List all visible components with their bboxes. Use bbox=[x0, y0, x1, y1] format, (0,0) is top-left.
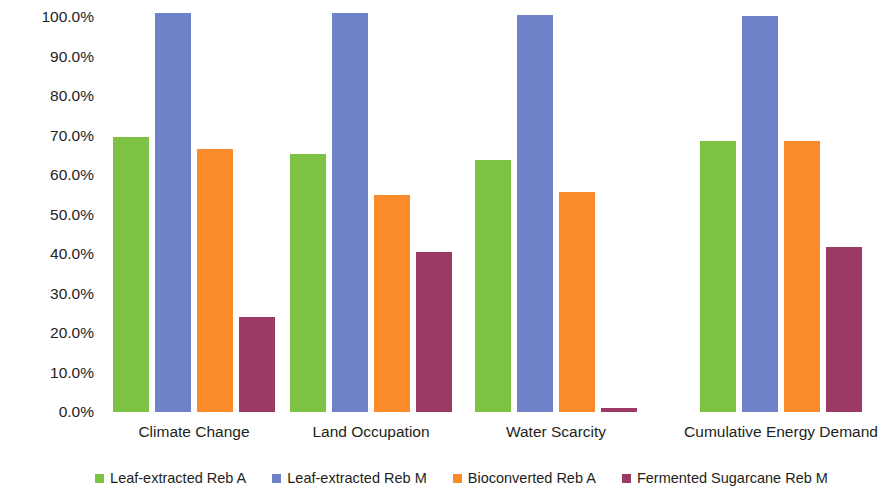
x-axis-category-label: Climate Change bbox=[138, 423, 249, 441]
bar[interactable] bbox=[700, 141, 736, 412]
y-axis-tick: 0.0% bbox=[20, 403, 94, 421]
bar[interactable] bbox=[416, 252, 452, 412]
bar[interactable] bbox=[290, 154, 326, 412]
y-axis-tick-labels: 100.0%90.0%80.0%70.0%60.0%50.0%40.0%30.0… bbox=[20, 0, 94, 420]
legend-item[interactable]: Leaf-extracted Reb M bbox=[272, 470, 426, 486]
bar[interactable] bbox=[155, 13, 191, 412]
legend-label: Leaf-extracted Reb M bbox=[287, 470, 426, 486]
y-axis-tick: 90.0% bbox=[20, 48, 94, 66]
chart-legend: Leaf-extracted Reb ALeaf-extracted Reb M… bbox=[0, 466, 895, 490]
bar[interactable] bbox=[517, 15, 553, 412]
bar[interactable] bbox=[784, 141, 820, 412]
legend-swatch-icon bbox=[453, 474, 462, 483]
bar[interactable] bbox=[239, 317, 275, 412]
y-axis-tick: 100.0% bbox=[20, 8, 94, 26]
bar[interactable] bbox=[742, 16, 778, 412]
y-axis-tick: 10.0% bbox=[20, 364, 94, 382]
bar[interactable] bbox=[113, 137, 149, 412]
bar[interactable] bbox=[601, 408, 637, 412]
y-axis-tick: 40.0% bbox=[20, 245, 94, 263]
bar[interactable] bbox=[559, 192, 595, 412]
legend-label: Leaf-extracted Reb A bbox=[110, 470, 246, 486]
x-axis-category-label: Cumulative Energy Demand bbox=[684, 423, 878, 441]
x-axis-category-label: Water Scarcity bbox=[506, 423, 606, 441]
legend-label: Fermented Sugarcane Reb M bbox=[637, 470, 828, 486]
y-axis-tick: 30.0% bbox=[20, 285, 94, 303]
bar[interactable] bbox=[826, 247, 862, 413]
legend-label: Bioconverted Reb A bbox=[468, 470, 596, 486]
legend-swatch-icon bbox=[95, 474, 104, 483]
y-axis-tick: 20.0% bbox=[20, 324, 94, 342]
legend-item[interactable]: Leaf-extracted Reb A bbox=[95, 470, 246, 486]
x-axis-category-label: Land Occupation bbox=[312, 423, 429, 441]
y-axis-tick: 70.0% bbox=[20, 127, 94, 145]
legend-item[interactable]: Bioconverted Reb A bbox=[453, 470, 596, 486]
legend-swatch-icon bbox=[622, 474, 631, 483]
x-axis-category-labels: Climate ChangeLand OccupationWater Scarc… bbox=[100, 423, 895, 451]
legend-swatch-icon bbox=[272, 474, 281, 483]
bar[interactable] bbox=[197, 149, 233, 412]
bar[interactable] bbox=[475, 160, 511, 412]
y-axis-tick: 50.0% bbox=[20, 206, 94, 224]
y-axis-tick: 60.0% bbox=[20, 166, 94, 184]
legend-item[interactable]: Fermented Sugarcane Reb M bbox=[622, 470, 828, 486]
y-axis-tick: 80.0% bbox=[20, 87, 94, 105]
bar[interactable] bbox=[374, 195, 410, 412]
bar-chart: Relative Impact Score 100.0%90.0%80.0%70… bbox=[0, 0, 895, 491]
bar[interactable] bbox=[332, 13, 368, 412]
plot-area bbox=[100, 0, 895, 412]
